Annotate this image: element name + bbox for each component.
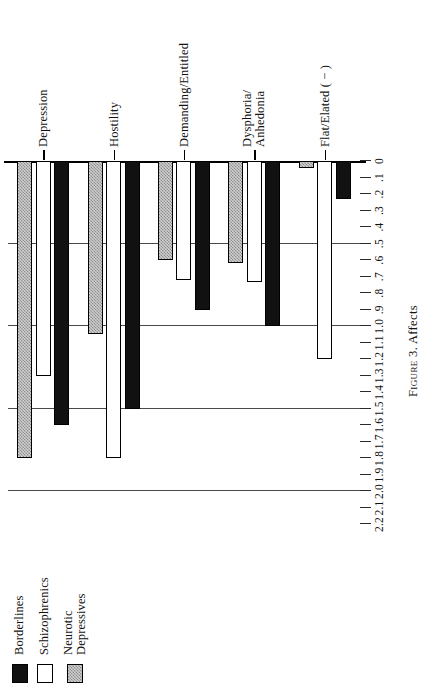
bar	[299, 161, 314, 168]
bar	[336, 161, 351, 199]
axis-tick	[360, 358, 371, 359]
axis-tick	[360, 177, 371, 178]
axis-tick-label: 1.5	[373, 401, 385, 416]
category-label: Depression	[37, 89, 50, 147]
category-label: Demanding/Entitled	[178, 43, 191, 147]
rotated-figure-stage: Borderlines Schizophrenics Neurotic Depr…	[0, 0, 438, 691]
axis-tick-label: 1.0	[373, 319, 385, 334]
axis-tick-label: .8	[373, 289, 385, 298]
axis-tick	[360, 391, 371, 392]
axis-tick-label: .3	[373, 206, 385, 215]
bar	[125, 161, 140, 409]
axis-tick	[360, 490, 371, 491]
legend-swatch-neurotic-depressives	[67, 664, 83, 683]
category-tick	[254, 150, 255, 160]
axis-tick-label: .4	[373, 223, 385, 232]
axis-tick-label: .7	[373, 272, 385, 281]
axis-tick-label: 1.4	[373, 385, 385, 400]
legend: Borderlines Schizophrenics Neurotic Depr…	[12, 533, 98, 683]
figure-caption: Figure 3. Affects	[406, 161, 421, 541]
legend-swatch-borderlines	[12, 664, 28, 683]
axis-tick	[360, 441, 371, 442]
axis-tick	[360, 457, 371, 458]
axis-tick	[360, 523, 371, 524]
bar-group	[8, 161, 78, 541]
bar	[265, 161, 280, 326]
figure-number: Figure 3.	[406, 347, 420, 397]
legend-label-borderlines: Borderlines	[13, 596, 26, 655]
axis-tick-label: .6	[373, 256, 385, 265]
category-tick	[114, 150, 115, 160]
axis-tick-label: 1.3	[373, 368, 385, 383]
bar-group	[78, 161, 148, 541]
axis-tick-label: .5	[373, 239, 385, 248]
axis-tick-label: .1	[373, 173, 385, 182]
figure-3-affects: Borderlines Schizophrenics Neurotic Depr…	[0, 0, 438, 691]
value-axis: 2.22.12.01.91.81.71.61.51.41.31.21.11.0.…	[360, 161, 406, 541]
axis-tick	[360, 276, 371, 277]
bar	[54, 161, 69, 425]
category-tick	[43, 150, 44, 160]
axis-tick-label: 2.0	[373, 484, 385, 499]
bar	[36, 161, 51, 376]
category-label: Dysphoria/ Anhedonia	[241, 90, 267, 147]
axis-tick	[360, 226, 371, 227]
bar	[17, 161, 32, 458]
axis-tick-label: 2.2	[373, 517, 385, 532]
bar	[247, 161, 262, 282]
bar-group	[290, 161, 360, 541]
plot-area	[8, 161, 360, 541]
figure-title: Affects	[406, 305, 420, 344]
bar-group	[149, 161, 219, 541]
bar-group	[219, 161, 289, 541]
axis-tick-label: 1.6	[373, 418, 385, 433]
axis-tick	[360, 193, 371, 194]
bar	[106, 161, 121, 458]
legend-label-schizophrenics: Schizophrenics	[38, 577, 51, 655]
bar	[228, 161, 243, 263]
category-label: Hostility	[107, 102, 120, 147]
axis-tick	[360, 292, 371, 293]
axis-tick-label: 1.9	[373, 467, 385, 482]
axis-tick	[360, 507, 371, 508]
axis-tick	[360, 160, 371, 161]
axis-tick	[360, 424, 371, 425]
legend-item-schizophrenics: Schizophrenics	[37, 533, 53, 683]
axis-tick	[360, 243, 371, 244]
legend-item-borderlines: Borderlines	[12, 533, 28, 683]
axis-tick-label: 0	[373, 158, 385, 164]
bar	[317, 161, 332, 359]
axis-tick	[360, 474, 371, 475]
bars-and-gridlines	[8, 161, 360, 541]
axis-tick-label: 1.2	[373, 352, 385, 367]
axis-tick	[360, 325, 371, 326]
category-label: Flat/Elated ( − )	[318, 65, 331, 147]
axis-tick-label: 1.7	[373, 434, 385, 449]
axis-tick-label: 1.1	[373, 335, 385, 350]
axis-tick	[360, 342, 371, 343]
bar	[176, 161, 191, 280]
axis-tick-label: .2	[373, 190, 385, 199]
bar	[158, 161, 173, 260]
category-tick	[184, 150, 185, 160]
axis-tick-label: 1.8	[373, 451, 385, 466]
axis-tick	[360, 408, 371, 409]
axis-tick	[360, 210, 371, 211]
axis-tick-label: .9	[373, 305, 385, 314]
axis-tick	[360, 375, 371, 376]
legend-swatch-schizophrenics	[37, 664, 53, 683]
axis-tick-label: 2.1	[373, 500, 385, 515]
bar	[195, 161, 210, 310]
legend-label-neurotic-depressives: Neurotic Depressives	[62, 593, 89, 655]
axis-tick	[360, 309, 371, 310]
category-tick	[325, 150, 326, 160]
axis-tick	[360, 259, 371, 260]
legend-item-neurotic-depressives: Neurotic Depressives	[62, 533, 89, 683]
bar	[88, 161, 103, 334]
